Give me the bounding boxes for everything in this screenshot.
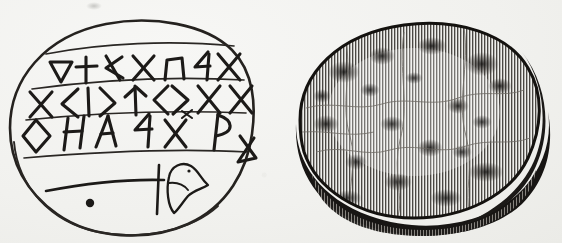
glyph-vertical-bar [88,88,89,116]
motif-vertical-stroke [157,165,159,214]
glyph-angle-left-1 [62,89,78,117]
glyph-wye-left [106,56,123,80]
figure-left-line-drawing [2,10,274,242]
left-figure-svg [2,10,274,242]
glyph-aitch [64,116,84,150]
glyph-ex-1 [133,56,154,80]
glyph-cross [76,57,97,83]
motif-neck-stroke [169,183,188,190]
figure-right-engraving [286,12,554,240]
glyph-four-like [195,52,210,80]
glyph-lambda [96,116,116,147]
glyph-angle-right-1 [100,88,115,116]
glyph-triangle-down [50,62,72,82]
motif-fish-figure [46,164,208,214]
glyph-ex-5 [230,86,252,113]
motif-tail-stroke [46,180,164,191]
rule-line-4 [24,150,248,158]
glyph-ex-2 [218,54,240,80]
lower-white-margin [0,243,562,251]
glyph-ex-3 [30,92,52,117]
motif-dot [86,199,94,207]
glyph-angle-left-2 [154,86,168,114]
motif-eye [187,169,190,172]
glyph-four-like-2 [135,114,152,147]
ink-smudge [86,2,102,10]
glyph-angle-right-2 [172,86,188,114]
glyph-dee-reversed [214,114,230,150]
glyph-ex-4 [198,86,220,113]
plate-canvas [0,0,562,251]
glyph-ex-with-tick [165,110,192,147]
right-figure-svg [286,12,554,240]
glyph-tee-wye [125,86,146,115]
glyph-arch [165,58,184,80]
glyph-diamond [23,120,50,152]
